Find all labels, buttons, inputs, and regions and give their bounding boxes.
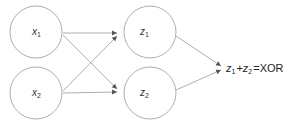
edge-x1-z2 xyxy=(63,35,117,89)
edge-z2-output xyxy=(176,70,221,90)
edge-z1-output xyxy=(176,36,221,66)
xor-network-diagram: x1 x2 z1 z2 z1+z2=XOR xyxy=(0,0,295,127)
output-equation: z1+z2=XOR xyxy=(225,62,284,75)
node-x2: x2 xyxy=(10,67,62,119)
edge-x2-z2 xyxy=(63,92,117,93)
node-x1: x1 xyxy=(10,6,62,58)
edge-x2-z1 xyxy=(63,36,117,91)
node-z2: z2 xyxy=(124,67,176,119)
node-z1: z1 xyxy=(124,6,176,58)
